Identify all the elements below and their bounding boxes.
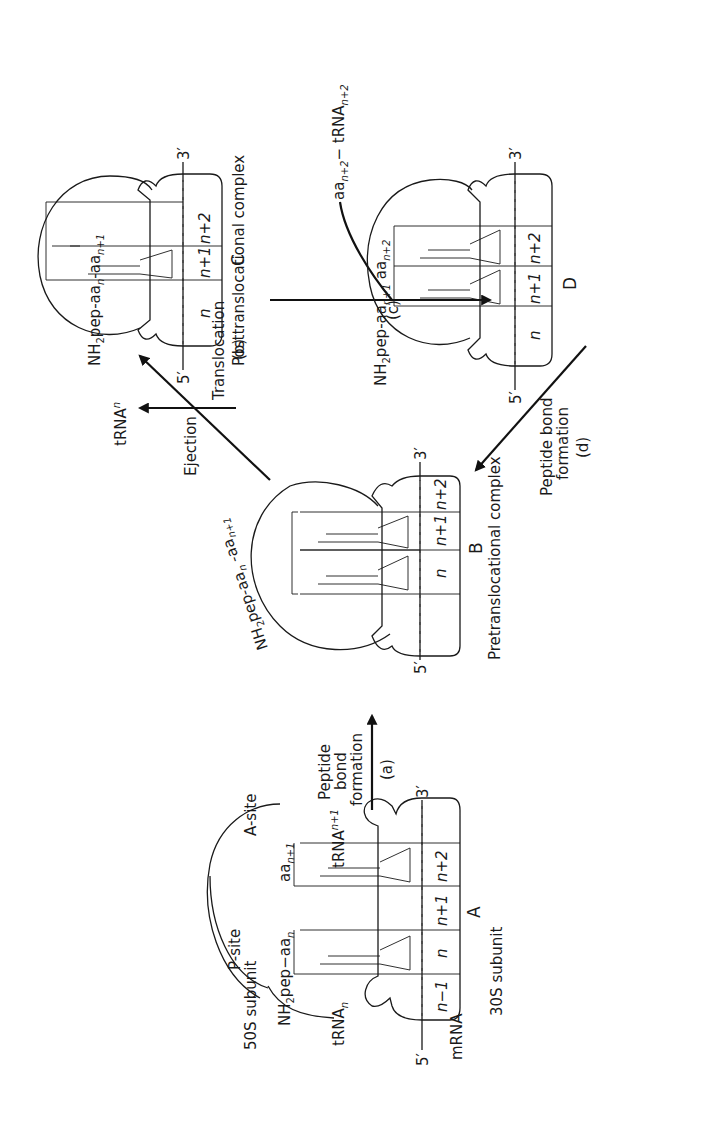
complex-a-peptide-label: NH2pep−aan (276, 932, 296, 1026)
step-a-peptide-bond-formation: Peptide bond formation (a) (316, 716, 396, 810)
trna-n-label: tRNAn (330, 1002, 350, 1046)
codon-c-2: n+2 (196, 212, 214, 244)
complex-b-caption: Pretranslocational complex (486, 456, 504, 660)
complex-b-id: B (466, 542, 486, 554)
ejected-trna-label: tRNAn (111, 402, 130, 446)
complex-a-id: A (464, 906, 484, 918)
trna-p-site (294, 930, 422, 974)
complex-d-id: D (560, 277, 580, 290)
complex-b-5-end: 5′ (412, 660, 430, 674)
complex-c-peptide-label: NH2pep-aan-aan+1 (86, 234, 106, 366)
b-large-subunit-outline (251, 482, 390, 650)
large-subunit-label: 50S subunit (242, 961, 260, 1050)
complex-d: n n+1 n+2 NH2pep-aan+1 aan+2 5′ (368, 146, 581, 404)
complex-a: n−1 n n+1 n+2 (207, 784, 506, 1066)
codon-c-1: n+1 (196, 246, 214, 278)
b-trna-p-site (300, 550, 420, 594)
codon-a-3: n+2 (433, 850, 451, 882)
codon-a-0: n−1 (433, 980, 451, 1012)
step-a-tag: (a) (378, 759, 396, 780)
trna-n1-label: tRNAn+1 (329, 809, 348, 868)
complex-c-caption: Posttranslocational complex (230, 155, 248, 366)
b-trna-a-site (292, 512, 420, 594)
complex-d-peptide-label: NH2pep-aan+1 aan+2 (372, 240, 392, 386)
complex-d-5-end: 5′ (507, 390, 525, 404)
codon-b-2: n+2 (432, 478, 450, 510)
codon-a-1: n (433, 948, 451, 958)
trna-a-site (294, 843, 422, 886)
step-a-line3: formation (348, 733, 366, 806)
step-d-tag: (d) (574, 437, 592, 458)
complex-b: n n+1 n+2 NH2pep-aan -aan+1 5′ (212, 446, 504, 674)
step-d-line2: formation (554, 407, 572, 480)
small-subunit-label: 30S subunit (488, 927, 506, 1016)
complex-c-3-end: 3′ (175, 146, 193, 160)
codon-b-1: n+1 (432, 514, 450, 546)
codon-c-0: n (196, 308, 214, 318)
codon-b-0: n (432, 568, 450, 578)
complex-a-aa-n1-label: aan+1 (276, 843, 296, 882)
complex-b-3-end: 3′ (412, 446, 430, 460)
p-site-label: P-site (226, 929, 244, 970)
mrna-label: mRNA (448, 1013, 466, 1060)
c-trna-p-site (46, 202, 183, 280)
a-site-label: A-site (242, 794, 260, 836)
complex-d-3-end: 3′ (507, 146, 525, 160)
translocation-arrow (140, 356, 270, 480)
large-subunit-outline (207, 804, 334, 1018)
complex-a-5-end: 5′ (414, 1052, 432, 1066)
incoming-trna-label: aan+2− tRNAn+2 (330, 84, 350, 200)
ribosome-elongation-diagram: n−1 n n+1 n+2 (0, 0, 716, 1126)
complex-b-peptide-label: NH2pep-aan -aan+1 (212, 516, 273, 652)
codon-d-1: n+1 (526, 272, 544, 304)
codon-d-0: n (526, 330, 544, 340)
complex-a-3-end: 3′ (414, 784, 432, 798)
codon-d-2: n+2 (526, 232, 544, 264)
codon-a-2: n+1 (433, 894, 451, 926)
ejection-label: Ejection (182, 416, 200, 476)
complex-c-5-end: 5′ (175, 370, 193, 384)
